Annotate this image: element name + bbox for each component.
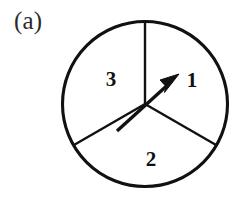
spinner-diagram: 1 2 3	[0, 0, 248, 199]
sector-label-1: 1	[187, 68, 198, 92]
figure-panel: (a) 1 2 3	[0, 0, 248, 199]
sector-label-2: 2	[146, 147, 157, 171]
sector-label-3: 3	[106, 67, 117, 91]
